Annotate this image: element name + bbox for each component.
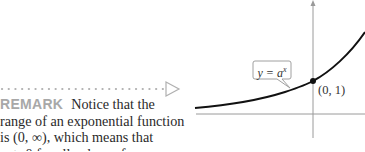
remark-line-2: range of an exponential function [0, 113, 175, 130]
remark-line-1: REMARKNotice that the [0, 96, 175, 113]
remark-keyword: REMARK [0, 96, 63, 112]
point-0-1 [310, 78, 316, 84]
dotted-pointer-arrow [2, 82, 179, 96]
point-label: (0, 1) [318, 83, 345, 98]
equation-label: y = ax [254, 62, 290, 78]
remark-line-3: is (0, ∞), which means that [0, 129, 175, 146]
remark-line-4: aˣ > 0 for all values of x. [0, 146, 175, 152]
equation-exponent: x [283, 65, 287, 74]
remark-note: REMARKNotice that the range of an expone… [0, 96, 175, 151]
y-axis-arrow-icon [311, 0, 316, 6]
equation-base: y = a [258, 66, 283, 80]
remark-text: Notice that the [71, 96, 155, 112]
